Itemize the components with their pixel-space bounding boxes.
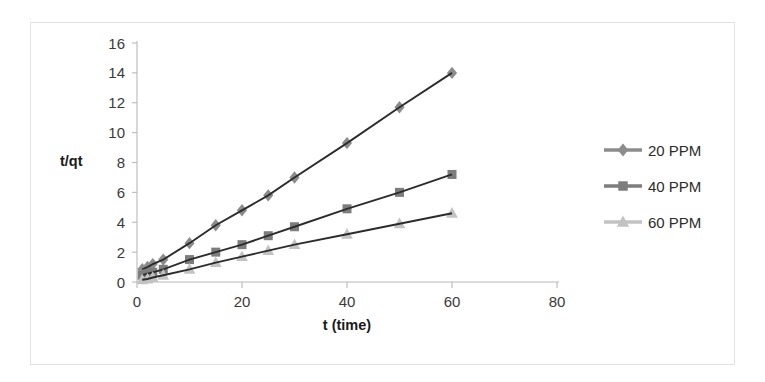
y-tick-label: 10 bbox=[108, 124, 125, 141]
legend-item[interactable]: 20 PPM bbox=[604, 142, 701, 159]
x-axis-ticks: 020406080 bbox=[133, 282, 566, 310]
legend-item[interactable]: 40 PPM bbox=[604, 178, 701, 195]
data-series-group bbox=[136, 67, 458, 285]
x-tick-label: 40 bbox=[339, 293, 356, 310]
legend-marker-icon bbox=[618, 143, 629, 156]
legend-label: 60 PPM bbox=[648, 214, 701, 231]
y-tick-label: 14 bbox=[108, 64, 125, 81]
chart-legend: 20 PPM40 PPM60 PPM bbox=[604, 142, 701, 231]
series-trend-line bbox=[142, 174, 452, 275]
data-point-marker bbox=[446, 207, 458, 218]
legend-label: 40 PPM bbox=[648, 178, 701, 195]
y-axis-ticks: 0246810121416 bbox=[108, 35, 137, 291]
chart-plot-area: 0246810121416 020406080 20 PPM40 PPM60 P… bbox=[0, 0, 765, 382]
y-tick-label: 0 bbox=[117, 274, 125, 291]
legend-label: 20 PPM bbox=[648, 142, 701, 159]
x-tick-label: 20 bbox=[234, 293, 251, 310]
y-tick-label: 2 bbox=[117, 244, 125, 261]
y-tick-label: 8 bbox=[117, 154, 125, 171]
line-chart: 0246810121416 020406080 20 PPM40 PPM60 P… bbox=[0, 0, 765, 382]
x-axis-title: t (time) bbox=[323, 317, 372, 333]
x-tick-label: 0 bbox=[133, 293, 141, 310]
data-series bbox=[138, 170, 457, 280]
x-tick-label: 80 bbox=[549, 293, 566, 310]
legend-marker-icon bbox=[618, 181, 627, 190]
y-tick-label: 12 bbox=[108, 94, 125, 111]
y-tick-label: 6 bbox=[117, 184, 125, 201]
y-tick-label: 16 bbox=[108, 35, 125, 52]
y-axis-title: t/qt bbox=[60, 153, 83, 169]
x-tick-label: 60 bbox=[444, 293, 461, 310]
y-tick-label: 4 bbox=[117, 214, 125, 231]
legend-item[interactable]: 60 PPM bbox=[604, 214, 701, 231]
